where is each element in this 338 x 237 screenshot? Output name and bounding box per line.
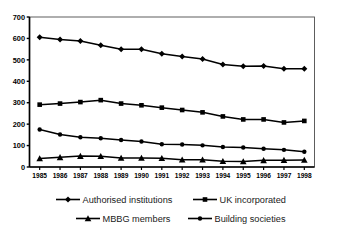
data-point: [78, 135, 82, 139]
data-point: [119, 138, 123, 142]
series-authorised-institutions: [37, 34, 308, 71]
data-point: [282, 120, 287, 125]
series-uk-incorporated: [37, 98, 306, 125]
y-axis-tick-labels: 0100200300400500600700: [13, 13, 25, 172]
data-point: [58, 132, 62, 136]
chart-legend: Authorised institutionsUK incorporatedMB…: [56, 195, 286, 224]
legend-label: MBBG members: [103, 214, 171, 224]
data-point: [160, 105, 165, 110]
legend-marker-square-icon: [203, 197, 208, 202]
y-axis-tick-label: 700: [13, 13, 25, 22]
data-point: [57, 37, 63, 43]
data-point: [200, 110, 205, 115]
data-point: [159, 51, 165, 57]
data-point: [37, 34, 43, 40]
data-point: [98, 42, 104, 48]
data-point: [302, 119, 307, 124]
x-axis-tick-label: 1996: [256, 172, 271, 179]
data-point: [200, 143, 204, 147]
data-point: [261, 147, 265, 151]
legend-label: Building societies: [215, 214, 286, 224]
y-axis-tick-label: 500: [13, 56, 25, 65]
data-point: [138, 46, 144, 52]
data-point: [200, 56, 206, 62]
data-point: [179, 53, 185, 59]
data-point: [221, 145, 225, 149]
data-point: [58, 101, 63, 106]
x-axis-tick-label: 1992: [175, 172, 190, 179]
legend-marker-circle-icon: [198, 216, 202, 220]
x-axis-tick-label: 1997: [277, 172, 292, 179]
legend-item-uk-incorporated: UK incorporated: [193, 195, 286, 205]
data-point: [139, 103, 144, 108]
series-building-societies: [37, 127, 306, 154]
x-axis-tick-labels: 1985198619871988198919901991199219931994…: [32, 172, 312, 179]
x-axis-tick-label: 1994: [216, 172, 231, 179]
x-axis-tick-label: 1993: [195, 172, 210, 179]
chart-series-layer: [36, 34, 307, 164]
x-axis-tick-label: 1989: [114, 172, 129, 179]
data-point: [220, 62, 226, 68]
data-point: [98, 98, 103, 103]
data-point: [282, 148, 286, 152]
data-point: [180, 108, 185, 113]
data-point: [221, 114, 226, 119]
line-chart: 0100200300400500600700 19851986198719881…: [0, 0, 338, 237]
data-point: [240, 63, 246, 69]
legend-item-mbbg-members: MBBG members: [76, 214, 171, 224]
x-axis-tick-label: 1985: [32, 172, 47, 179]
x-axis-tick-label: 1990: [134, 172, 149, 179]
x-axis-tick-label: 1986: [53, 172, 68, 179]
data-point: [261, 117, 266, 122]
y-axis-tick-label: 600: [13, 34, 25, 43]
y-axis-tick-label: 200: [13, 120, 25, 129]
data-point: [241, 117, 246, 122]
data-point: [77, 38, 83, 44]
legend-item-building-societies: Building societies: [188, 214, 286, 224]
data-point: [281, 66, 287, 72]
x-axis-tick-label: 1988: [93, 172, 108, 179]
y-axis-tick-label: 0: [21, 163, 25, 172]
series-mbbg-members: [36, 153, 307, 164]
chart-container: 0100200300400500600700 19851986198719881…: [0, 0, 338, 237]
data-point: [301, 66, 307, 72]
x-axis-tick-label: 1991: [154, 172, 169, 179]
data-point: [302, 150, 306, 154]
y-axis-tick-label: 100: [13, 141, 25, 150]
data-point: [139, 139, 143, 143]
legend-label: Authorised institutions: [83, 195, 173, 205]
x-axis-tick-label: 1987: [73, 172, 88, 179]
data-point: [241, 145, 245, 149]
x-axis-tick-label: 1995: [236, 172, 251, 179]
data-point: [37, 127, 41, 131]
data-point: [78, 100, 83, 105]
data-point: [37, 102, 42, 107]
x-axis-tick-label: 1998: [297, 172, 312, 179]
y-axis-tick-label: 300: [13, 98, 25, 107]
y-axis-tick-label: 400: [13, 77, 25, 86]
legend-label: UK incorporated: [220, 195, 286, 205]
data-point: [180, 142, 184, 146]
legend-item-authorised-institutions: Authorised institutions: [56, 195, 173, 205]
data-point: [261, 63, 267, 69]
data-point: [118, 46, 124, 52]
data-point: [99, 136, 103, 140]
data-point: [160, 142, 164, 146]
data-point: [119, 101, 124, 106]
legend-marker-diamond-icon: [65, 197, 71, 203]
